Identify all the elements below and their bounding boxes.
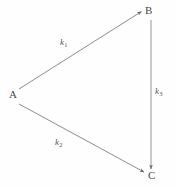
reaction-scheme-diagram: A B C k1 k2 k3	[0, 0, 177, 187]
node-label-c: C	[148, 170, 155, 181]
rate-constant-subscript: 2	[59, 141, 62, 148]
edge-a-to-c	[19, 104, 144, 172]
edge-label-k2: k2	[55, 138, 62, 147]
edge-a-to-b	[19, 12, 142, 90]
edge-label-k1: k1	[60, 38, 67, 47]
node-label-a: A	[9, 89, 17, 100]
rate-constant-subscript: 1	[64, 41, 67, 48]
rate-constant-subscript: 3	[159, 90, 162, 97]
edge-label-k3: k3	[155, 87, 162, 96]
node-label-b: B	[145, 5, 152, 16]
diagram-canvas	[0, 0, 177, 187]
